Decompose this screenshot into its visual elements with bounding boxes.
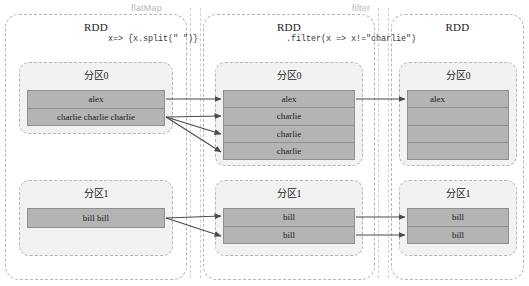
stage-divider-flatmap bbox=[190, 8, 191, 278]
data-cell bbox=[408, 143, 508, 159]
data-cell: bill bbox=[224, 209, 354, 227]
cell-stack-source-1: bill bill bbox=[27, 208, 165, 228]
partition-title-source-1: 分区1 bbox=[20, 185, 172, 200]
data-cell: bill bbox=[408, 209, 508, 227]
data-cell bbox=[408, 108, 508, 125]
rdd-title-source: RDD bbox=[6, 21, 186, 33]
data-cell: alex bbox=[224, 91, 354, 108]
filter-lambda-expression: .filter(x => x!="charlie") bbox=[286, 34, 416, 44]
cell-stack-flatmap-0: alex charlie charlie charlie bbox=[223, 90, 355, 160]
stage-divider-filter-secondary bbox=[388, 8, 389, 278]
partition-title-flatmap-0: 分区0 bbox=[216, 67, 362, 82]
data-cell: bill bill bbox=[28, 209, 164, 227]
data-cell: alex bbox=[28, 91, 164, 109]
data-cell: charlie bbox=[224, 143, 354, 159]
operation-label-flatmap: flatMap bbox=[131, 3, 162, 13]
rdd-title-flatmap: RDD bbox=[204, 21, 374, 33]
cell-stack-filter-1: bill bill bbox=[407, 208, 509, 244]
operation-label-filter: filter bbox=[352, 3, 370, 13]
partition-title-filter-0: 分区0 bbox=[400, 67, 516, 82]
stage-divider-flatmap-secondary bbox=[200, 8, 201, 278]
data-cell: bill bbox=[408, 227, 508, 244]
data-cell: charlie charlie charlie bbox=[28, 109, 164, 126]
cell-stack-filter-0: alex bbox=[407, 90, 509, 160]
cell-stack-source-0: alex charlie charlie charlie bbox=[27, 90, 165, 126]
partition-title-filter-1: 分区1 bbox=[400, 185, 516, 200]
data-cell: charlie bbox=[224, 126, 354, 143]
rdd-title-filter: RDD bbox=[392, 21, 523, 33]
partition-title-source-0: 分区0 bbox=[20, 67, 172, 82]
data-cell: charlie bbox=[224, 108, 354, 125]
partition-title-flatmap-1: 分区1 bbox=[216, 185, 362, 200]
data-cell: bill bbox=[224, 227, 354, 244]
diagram-canvas: flatMap filter RDD 分区0 alex charlie char… bbox=[0, 0, 529, 286]
data-cell bbox=[408, 126, 508, 143]
flatmap-lambda-expression: x=> {x.split(" ")} bbox=[108, 34, 198, 44]
data-cell: alex bbox=[408, 91, 508, 108]
stage-divider-filter bbox=[378, 8, 379, 278]
cell-stack-flatmap-1: bill bill bbox=[223, 208, 355, 244]
